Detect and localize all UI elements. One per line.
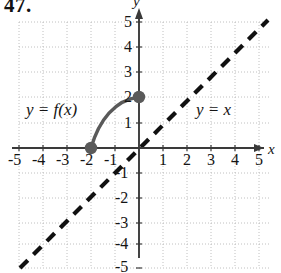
y-tick-label-2: 2 [124, 89, 132, 105]
y-tick-label-5: 5 [124, 14, 132, 30]
curve-label-f-of-x: y = f(x) [26, 101, 77, 118]
x-tick-label-1: 1 [159, 152, 167, 168]
x-tick-label-4: 4 [231, 152, 239, 168]
y-tick-label-1: 1 [124, 115, 132, 131]
x-tick-label--4: -4 [32, 152, 45, 168]
y-tick-label-4: 4 [124, 39, 132, 55]
y-axis-arrow [135, 8, 143, 19]
x-tick-label--3: -3 [56, 152, 69, 168]
line-y-equals-x [20, 20, 268, 268]
y-tick-label--3: -3 [115, 215, 128, 231]
axes [12, 12, 264, 258]
endpoint-marker-right [133, 91, 145, 103]
x-tick-label--2: -2 [80, 152, 93, 168]
x-tick-label--5: -5 [8, 152, 21, 168]
y-tick-label--1: -1 [115, 165, 128, 181]
coordinate-plane [0, 0, 281, 273]
y-tick-label--2: -2 [115, 190, 128, 206]
y-tick-label--4: -4 [115, 236, 128, 252]
x-tick-label-3: 3 [207, 152, 215, 168]
exercise-figure: 47. [0, 0, 281, 273]
x-tick-label-2: 2 [183, 152, 191, 168]
curve-label-y-equals-x: y = x [196, 101, 231, 118]
x-axis-label: x [268, 142, 275, 157]
y-axis-label: y [133, 0, 140, 9]
y-tick-label--5: -5 [115, 259, 128, 273]
x-tick-label-5: 5 [255, 152, 263, 168]
y-tick-label-3: 3 [124, 64, 132, 80]
